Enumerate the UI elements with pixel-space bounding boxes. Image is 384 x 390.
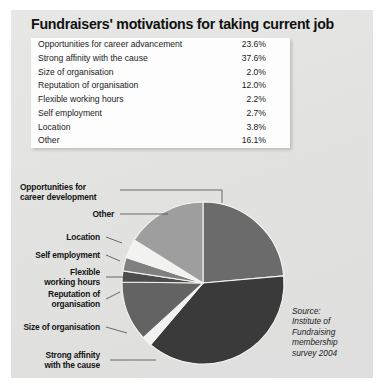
table-cell-label: Reputation of organisation [38, 79, 138, 93]
table-cell-value: 2.7% [246, 107, 266, 121]
table-row: Size of organisation 2.0% [31, 66, 290, 80]
table-row: Self employment 2.7% [31, 107, 290, 121]
pie-label-flexible-hours: Flexible working hours [16, 267, 100, 287]
table-row: Location 3.8% [31, 121, 290, 135]
table-cell-label: Flexible working hours [38, 93, 124, 107]
table-cell-label: Opportunities for career advancement [38, 38, 182, 52]
table-cell-label: Other [38, 134, 60, 148]
page-title: Fundraisers' motivations for taking curr… [31, 16, 361, 32]
table-cell-value: 2.0% [246, 66, 266, 80]
pie-label-location: Location [22, 232, 100, 242]
pie-label-size: Size of organisation [12, 322, 100, 332]
pie-label-reputation: Reputation of organisation [16, 289, 100, 309]
table-cell-value: 23.6% [242, 38, 266, 52]
table-cell-label: Location [38, 121, 71, 135]
table-row: Flexible working hours 2.2% [31, 93, 290, 107]
pie-label-strong-affinity: Strong affinity with the cause [16, 350, 100, 370]
pie-label-self-employment: Self employment [14, 250, 100, 260]
source-note: Source: Institute of Fundraising members… [292, 306, 376, 358]
pie-label-opportunities: Opportunities for career development [20, 182, 116, 202]
table-row: Strong affinity with the cause 37.6% [31, 52, 290, 66]
table-row: Opportunities for career advancement 23.… [31, 38, 290, 52]
table-cell-value: 16.1% [242, 134, 266, 148]
pie-label-other: Other [22, 209, 114, 219]
table-cell-value: 3.8% [246, 121, 266, 135]
table-cell-label: Self employment [38, 107, 102, 121]
figure-root: Fundraisers' motivations for taking curr… [0, 0, 384, 390]
table-row: Other 16.1% [31, 134, 290, 148]
table-cell-value: 37.6% [242, 52, 266, 66]
table-row: Reputation of organisation 12.0% [31, 79, 290, 93]
table-cell-label: Size of organisation [38, 66, 113, 80]
table-cell-value: 2.2% [246, 93, 266, 107]
table-cell-label: Strong affinity with the cause [38, 52, 148, 66]
motivations-table: Opportunities for career advancement 23.… [31, 38, 290, 148]
table-cell-value: 12.0% [242, 79, 266, 93]
